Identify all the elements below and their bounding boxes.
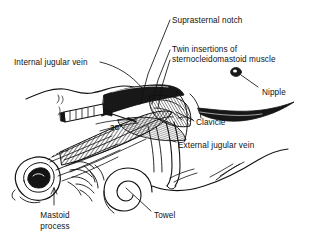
label-mastoid-line2: process [30,222,80,232]
label-sternocleidomastoid: sternocleidomastoid muscle [172,55,276,65]
label-suprasternal-notch: Suprasternal notch [172,16,243,26]
label-nipple: Nipple [262,88,286,98]
label-twin-insertions: Twin insertions of [172,45,237,55]
label-external-jugular: External jugular vein [178,141,254,151]
label-clavicle: Clavicle [196,118,225,128]
nipple [231,68,242,77]
label-mastoid-line1: Mastoid [30,211,80,221]
anatomical-figure: 30° Suprasternal notch Twin insertions o… [0,0,310,248]
label-internal-jugular: Internal jugular vein [14,58,88,68]
sternocleidomastoid-muscle [50,85,191,181]
rolled-towel [104,168,152,213]
label-towel: Towel [154,211,175,221]
needle-angle-text: 30° [110,123,122,132]
leader-nipple [241,75,258,87]
hair-tuft [68,162,104,201]
leader-internal-jugular [100,62,142,88]
